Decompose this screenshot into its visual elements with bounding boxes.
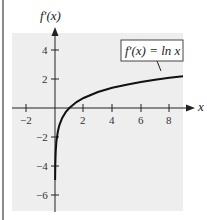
y-axis-arrow-icon xyxy=(52,27,59,36)
x-tick-label: 6 xyxy=(138,114,144,126)
x-axis-arrow-icon xyxy=(186,105,195,112)
y-tick-label: 2 xyxy=(42,73,48,85)
y-axis-label: f′(x) xyxy=(40,8,61,23)
y-tick-label: −6 xyxy=(36,189,48,201)
y-tick-label: 4 xyxy=(42,44,48,56)
y-tick-label: −4 xyxy=(36,160,48,172)
y-tick-label: −2 xyxy=(36,131,48,143)
x-tick-label: 4 xyxy=(109,114,115,126)
legend-label: f′(x) = ln x xyxy=(125,43,181,58)
chart-canvas: −2 2 4 6 8 x 4 2 −2 −4 −6 f′(x) f′(x) = … xyxy=(0,0,207,220)
x-axis-label: x xyxy=(197,99,204,114)
x-tick-label: −2 xyxy=(20,114,32,126)
x-tick-label: 8 xyxy=(166,114,172,126)
x-tick-label: 2 xyxy=(80,114,86,126)
